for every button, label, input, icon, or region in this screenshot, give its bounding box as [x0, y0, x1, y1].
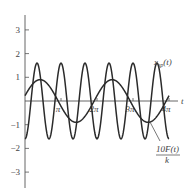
series-10F-over-k-label-denominator: k [165, 155, 170, 165]
series-10F-over-k-label-numerator: 10F(t) [156, 144, 179, 154]
y-tick-label: 1 [16, 72, 21, 82]
y-tick-label: −1 [10, 120, 20, 130]
x-ticks: π2π3π4π [56, 98, 171, 114]
y-tick-label: 2 [16, 49, 21, 59]
series-xsp-label: xsp(t) [153, 57, 172, 68]
y-tick-label: −2 [10, 143, 20, 153]
chart: 321−1−2−3 π2π3π4π t xsp(t) 10F(t) k [0, 0, 187, 194]
series-10F-over-k-leader [150, 122, 160, 141]
x-axis-label: t [181, 96, 184, 106]
y-tick-label: −3 [10, 167, 20, 177]
y-tick-label: 3 [16, 25, 21, 35]
